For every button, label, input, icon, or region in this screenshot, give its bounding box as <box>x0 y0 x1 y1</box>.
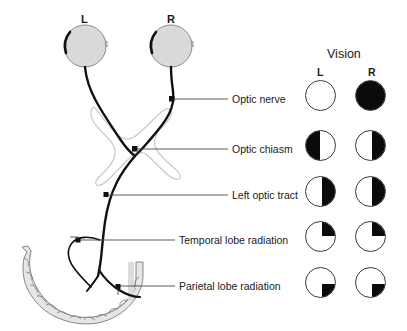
temporal-lobe-radiation-pathway <box>68 237 100 291</box>
right-eye <box>150 25 193 67</box>
marker-parietal-radiation <box>116 284 121 289</box>
field-fill-upper-right-quadrant <box>322 221 337 236</box>
marker-optic-nerve <box>169 96 175 102</box>
vision-panel-title: Vision <box>327 48 361 61</box>
callout-label-parietal-lobe-radiation: Parietal lobe radiation <box>179 281 281 292</box>
callout-label-temporal-lobe-radiation: Temporal lobe radiation <box>179 235 288 246</box>
vision-field-row5-right <box>355 267 386 298</box>
marker-temporal-radiation <box>76 238 81 243</box>
vision-field-row2-left <box>305 130 336 161</box>
pathway-junction-markers <box>76 96 175 289</box>
diagram-canvas: L R Optic nerve Optic chiasm Left optic … <box>0 0 407 331</box>
callout-label-optic-chiasm: Optic chiasm <box>232 144 293 155</box>
vision-field-row2-right <box>355 130 386 161</box>
right-eye-label: R <box>167 14 175 25</box>
vision-field-row3-right <box>355 176 386 207</box>
vision-column-label-right: R <box>368 67 376 78</box>
vision-field-row1-left <box>305 80 336 111</box>
field-fill-right-half <box>372 130 387 161</box>
vision-column-label-left: L <box>317 67 323 78</box>
field-fill-upper-right-quadrant <box>372 221 387 236</box>
vision-field-row4-left <box>305 221 336 252</box>
field-fill-lower-right-quadrant <box>322 284 337 299</box>
vision-field-row4-right <box>355 221 386 252</box>
marker-optic-chiasm <box>132 146 138 152</box>
left-eye <box>64 25 107 67</box>
field-fill-lower-right-quadrant <box>372 284 387 299</box>
occipital-cortex <box>22 246 143 324</box>
vision-field-row5-left <box>305 267 336 298</box>
field-fill-left-half <box>305 130 320 161</box>
vision-field-row1-right <box>355 80 386 111</box>
field-fill-right-half <box>322 176 337 207</box>
callout-leader-lines <box>70 99 228 295</box>
callout-label-left-optic-tract: Left optic tract <box>232 190 298 201</box>
vision-field-row3-left <box>305 176 336 207</box>
left-optic-tract-pathway <box>98 156 135 276</box>
callout-label-optic-nerve: Optic nerve <box>232 94 286 105</box>
field-fill-full <box>355 80 386 111</box>
left-eye-label: L <box>81 14 88 25</box>
marker-left-optic-tract <box>104 192 109 197</box>
field-fill-right-half <box>372 176 387 207</box>
left-optic-nerve-pathway <box>85 67 135 156</box>
